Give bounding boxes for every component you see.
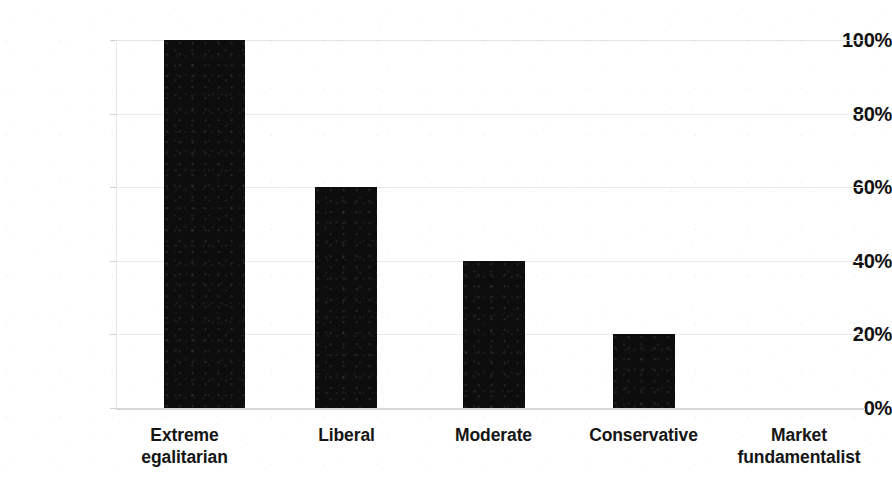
- xtick-label-line1: Market: [771, 425, 827, 445]
- xtick-label-moderate: Moderate: [421, 424, 566, 446]
- bar-liberal: [315, 187, 377, 408]
- xtick-label-line2: fundamentalist: [719, 446, 879, 468]
- xtick-label-line1: Conservative: [589, 425, 698, 445]
- xtick-label-extreme-egalitarian: Extreme egalitarian: [112, 424, 257, 469]
- xtick-label-liberal: Liberal: [274, 424, 419, 446]
- xtick-label-market-fundamentalist: Market fundamentalist: [719, 424, 879, 469]
- bar-chart: 100% 80% 60% 40% 20% 0% Extreme egalitar…: [0, 0, 892, 494]
- xtick-label-conservative: Conservative: [571, 424, 716, 446]
- x-axis-line: [116, 408, 865, 410]
- xtick-label-line2: egalitarian: [112, 446, 257, 468]
- xtick-label-line1: Moderate: [455, 425, 532, 445]
- bar-conservative: [613, 334, 675, 408]
- plot-area: [116, 40, 865, 408]
- bar-moderate: [463, 261, 525, 408]
- xtick-label-line1: Extreme: [150, 425, 218, 445]
- bar-extreme-egalitarian: [164, 40, 245, 408]
- xtick-label-line1: Liberal: [318, 425, 375, 445]
